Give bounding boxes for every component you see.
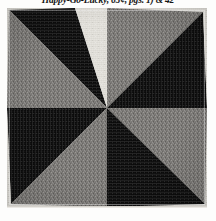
quilt-block-photograph xyxy=(7,8,207,207)
scanned-page: Happy-Go-Lucky, 65¢, pgs. 1) & 42 xyxy=(0,0,216,221)
plate-caption: Happy-Go-Lucky, 65¢, pgs. 1) & 42 xyxy=(0,0,216,7)
pinwheel-block-graphic xyxy=(7,8,207,207)
plate-bottom-edge xyxy=(7,206,207,208)
